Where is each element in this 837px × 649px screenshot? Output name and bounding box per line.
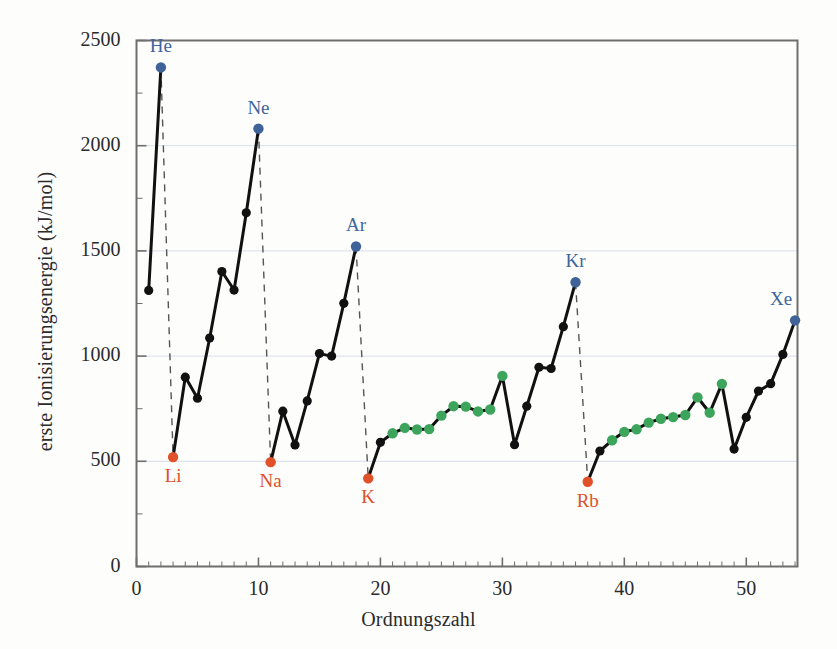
data-point-z28 [473,406,483,416]
data-point-z13 [290,440,299,449]
ionization-energy-chart-figure: 05001000150020002500 01020304050 HeNeArK… [0,0,837,649]
annotation-kr: Kr [546,250,606,272]
data-point-z18 [351,241,361,251]
data-point-z52 [766,379,775,388]
data-point-z12 [278,407,287,416]
data-point-z20 [376,438,385,447]
x-tick-label-20: 20 [350,577,410,600]
data-point-z4 [181,373,190,382]
data-point-z46 [692,392,702,402]
data-line [149,67,795,481]
data-point-z24 [424,424,434,434]
annotation-rb: Rb [558,490,618,512]
data-point-z15 [315,349,324,358]
annotation-na: Na [241,470,301,492]
annotation-k: K [338,486,398,508]
plot-canvas [0,0,837,649]
data-point-z35 [559,322,568,331]
x-tick-label-50: 50 [716,577,776,600]
data-point-z19 [363,473,373,483]
data-point-z51 [754,386,763,395]
annotation-he: He [131,35,191,57]
data-point-z1 [144,286,153,295]
data-point-z22 [400,423,410,433]
data-point-z17 [339,299,348,308]
data-point-z30 [497,371,507,381]
data-point-z29 [485,404,495,414]
data-point-z39 [607,435,617,445]
series-segment-2 [271,247,356,463]
annotation-xe: Xe [751,288,811,310]
x-tick-label-30: 30 [472,577,532,600]
data-point-z37 [583,477,593,487]
data-point-z32 [522,402,531,411]
data-point-z34 [547,364,556,373]
data-point-z40 [619,427,629,437]
data-point-z50 [742,413,751,422]
data-point-z49 [729,444,738,453]
data-point-z14 [303,396,312,405]
annotation-ne: Ne [228,97,288,119]
data-point-z8 [229,285,238,294]
data-point-z38 [595,446,604,455]
plot-frame [137,41,798,567]
dashed-drop-line-3 [576,282,588,481]
data-point-z42 [644,417,654,427]
x-tick-label-0: 0 [107,577,167,600]
data-point-z5 [193,394,202,403]
data-point-z45 [680,410,690,420]
data-point-z44 [668,412,678,422]
data-point-z43 [656,414,666,424]
data-point-z3 [168,452,178,462]
data-point-z48 [717,379,727,389]
data-point-z10 [253,123,263,133]
annotation-ar: Ar [326,214,386,236]
data-point-z7 [217,267,226,276]
x-tick-label-10: 10 [228,577,288,600]
data-point-z6 [205,333,214,342]
data-point-z47 [704,407,714,417]
series-segment-3 [368,282,575,478]
dashed-drop-line-2 [356,246,368,478]
data-point-z31 [510,440,519,449]
x-axis-title: Ordnungszahl [0,608,837,631]
axes-frame [137,41,798,567]
data-point-z27 [461,401,471,411]
dashed-drop-line-1 [258,129,270,462]
series-segment-4 [588,320,795,481]
data-point-z11 [265,457,275,467]
data-point-z25 [436,410,446,420]
y-axis-title: erste Ionisierungsenergie (kJ/mol) [34,32,57,592]
data-point-z2 [156,62,166,72]
series-segment-0 [149,67,161,290]
data-point-z16 [327,352,336,361]
data-point-z26 [448,401,458,411]
dashed-drop-line-0 [161,67,173,457]
data-point-z54 [790,315,800,325]
data-point-z21 [387,428,397,438]
x-tick-label-40: 40 [594,577,654,600]
data-point-z33 [534,363,543,372]
data-point-z23 [412,424,422,434]
data-point-z36 [570,277,580,287]
data-point-z9 [242,208,251,217]
series-segment-1 [173,129,258,457]
data-points [144,62,800,487]
axis-ticks [137,41,796,567]
data-point-z41 [631,424,641,434]
data-point-z53 [778,350,787,359]
annotation-li: Li [143,465,203,487]
